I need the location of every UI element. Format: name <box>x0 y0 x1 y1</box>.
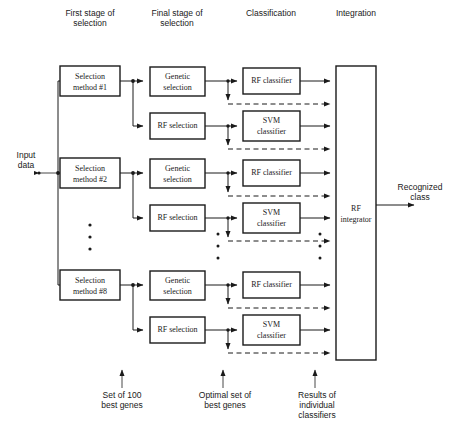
svm-classifier-8-label-line1: SVM <box>263 320 280 329</box>
annotation-arrows <box>122 370 315 388</box>
ellipsis-classification-column <box>319 233 322 260</box>
svm-classifier-1-label-line2: classifier <box>257 127 286 136</box>
ellipsis-final-column <box>217 233 220 260</box>
selection-method-2-label-line2: method #2 <box>73 175 107 184</box>
svm-classifier-8-label-line2: classifier <box>257 331 286 340</box>
pipeline-group-8: Selection method #8 Genetic selection RF… <box>60 270 330 353</box>
input-bus <box>37 81 60 285</box>
genetic-selection-1-label-line1: Genetic <box>165 72 190 81</box>
pipeline-group-2: Selection method #2 Genetic selection RF… <box>60 158 330 241</box>
svm-classifier-1-label-line1: SVM <box>263 116 280 125</box>
selection-method-8-label-line1: Selection <box>75 276 105 285</box>
genetic-selection-8-label-line1: Genetic <box>165 276 190 285</box>
selection-method-8-label-line2: method #8 <box>73 287 107 296</box>
rf-classifier-1-label: RF classifier <box>251 76 292 85</box>
rf-integrator-box[interactable] <box>336 66 376 360</box>
svm-classifier-2-label-line2: classifier <box>257 219 286 228</box>
rf-integrator-label-line1: RF <box>351 204 361 213</box>
selection-method-1-label-line1: Selection <box>75 72 105 81</box>
selection-method-2-label-line1: Selection <box>75 164 105 173</box>
input-terminal-dot <box>37 171 40 174</box>
svm-classifier-2-label-line1: SVM <box>263 208 280 217</box>
diagram-root: First stage of selection Final stage of … <box>0 0 456 438</box>
genetic-selection-2-label-line2: selection <box>163 175 191 184</box>
diagram-canvas: Selection method #1 Genetic selection RF… <box>0 0 456 438</box>
genetic-selection-8-label-line2: selection <box>163 287 191 296</box>
rf-integrator-label-line2: integrator <box>340 215 371 224</box>
genetic-selection-1-label-line2: selection <box>163 83 191 92</box>
rf-selection-2-label: RF selection <box>157 213 197 222</box>
selection-method-1-label-line2: method #1 <box>73 83 107 92</box>
rf-classifier-8-label: RF classifier <box>251 280 292 289</box>
rf-classifier-2-label: RF classifier <box>251 168 292 177</box>
ellipsis-selection-column <box>88 223 91 250</box>
pipeline-group-1: Selection method #1 Genetic selection RF… <box>60 66 330 149</box>
rf-selection-8-label: RF selection <box>157 325 197 334</box>
rf-selection-1-label: RF selection <box>157 121 197 130</box>
rf-integrator-group[interactable]: RF integrator <box>336 66 376 360</box>
genetic-selection-2-label-line1: Genetic <box>165 164 190 173</box>
